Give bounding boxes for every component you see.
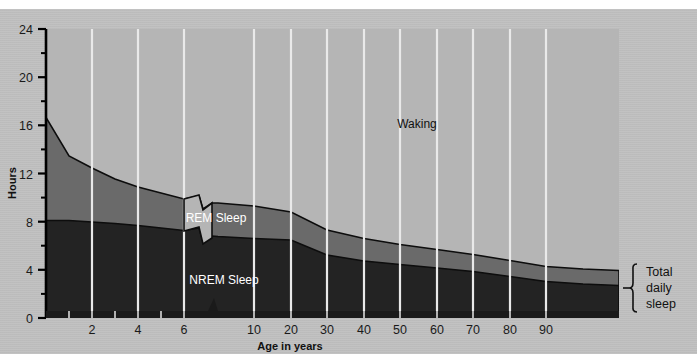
x-tick-label-60: 60 (430, 323, 444, 337)
plot-area (46, 29, 619, 318)
x-tick-label-4: 4 (135, 323, 142, 337)
bracket-label-group: Total daily sleep (646, 265, 676, 311)
y-tick-label-0: 0 (26, 312, 33, 326)
y-tick-label-16: 16 (19, 119, 33, 133)
nrem-sleep-label: NREM Sleep (189, 273, 259, 287)
x-tick-label-90: 90 (539, 323, 553, 337)
x-tick-label-6: 6 (181, 323, 188, 337)
x-axis-right-bar (232, 311, 619, 318)
y-tick-label-8: 8 (26, 216, 33, 230)
x-tick-label-2: 2 (89, 323, 96, 337)
total-daily-sleep-bracket (623, 264, 637, 312)
y-tick-labels: 24 20 16 12 8 4 0 (19, 23, 33, 326)
bracket-curly (629, 264, 637, 312)
bracket-label-line1: Total (646, 265, 672, 279)
y-axis (38, 29, 46, 318)
x-tick-labels: 2 4 6 10 20 30 40 50 60 70 80 90 (89, 323, 553, 337)
x-axis-title: Age in years (257, 340, 322, 352)
x-tick-label-40: 40 (357, 323, 371, 337)
x-tick-label-80: 80 (503, 323, 517, 337)
y-tick-label-12: 12 (19, 168, 33, 182)
x-tick-label-70: 70 (466, 323, 480, 337)
y-tick-label-4: 4 (26, 264, 33, 278)
y-tick-label-24: 24 (19, 23, 33, 37)
waking-label: Waking (397, 117, 437, 131)
y-axis-title: Hours (6, 167, 18, 199)
rem-sleep-label: REM Sleep (186, 211, 247, 225)
figure-panel: 24 20 16 12 8 4 0 Hours (0, 9, 697, 354)
x-tick-label-50: 50 (393, 323, 407, 337)
sleep-across-lifespan-chart: 24 20 16 12 8 4 0 Hours (0, 9, 697, 354)
x-tick-label-10: 10 (247, 323, 261, 337)
bracket-label-line2: daily (646, 281, 672, 295)
x-tick-label-20: 20 (284, 323, 298, 337)
y-tick-label-20: 20 (19, 71, 33, 85)
bracket-label-line3: sleep (646, 297, 676, 311)
x-tick-label-30: 30 (320, 323, 334, 337)
